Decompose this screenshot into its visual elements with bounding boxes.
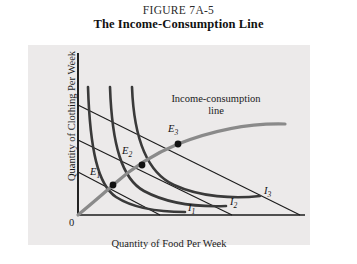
indifference-curve-label-I3: I3 (264, 185, 271, 199)
indifference-curve-label-I2: I2 (230, 196, 237, 210)
equilibrium-point-E2 (139, 162, 146, 169)
equilibrium-label-E3: E3 (168, 123, 178, 137)
chart-panel: Income-consumption line E1 E2 E3 I1 I2 I… (28, 45, 310, 245)
x-axis-label: Quantity of Food Per Week (28, 238, 310, 249)
equilibrium-point-E1 (110, 182, 117, 189)
equilibrium-point-E3 (175, 141, 182, 148)
income-consumption-line (78, 124, 285, 215)
figure-header: FIGURE 7A-5 The Income-Consumption Line (0, 3, 357, 32)
figure-title: The Income-Consumption Line (0, 17, 357, 32)
indifference-curve-label-I1: I1 (188, 202, 195, 216)
figure-number: FIGURE 7A-5 (0, 3, 357, 17)
origin-label: 0 (69, 217, 74, 228)
equilibrium-label-E1: E1 (90, 166, 100, 180)
icline-label-line1: Income-consumption (171, 93, 260, 104)
equilibrium-label-E2: E2 (122, 145, 132, 159)
y-axis-label: Quantity of Clothing Per Week (66, 41, 77, 191)
income-consumption-line-label: Income-consumption line (156, 93, 276, 117)
icline-label-line2: line (208, 105, 224, 116)
